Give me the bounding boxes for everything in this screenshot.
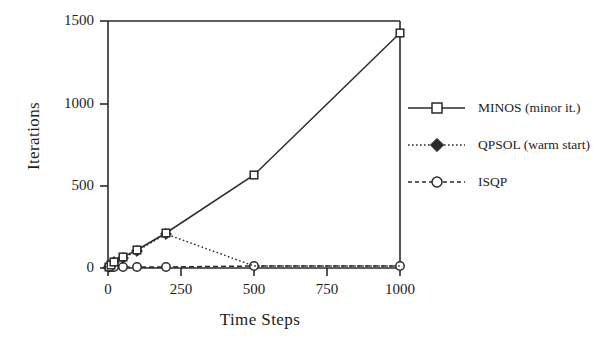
- series-minos: [105, 29, 404, 271]
- x-tick-label-0: 0: [78, 281, 138, 298]
- y-tick-label-1500: 1500: [34, 12, 94, 29]
- legend-label-minos: MINOS (minor it.): [478, 100, 580, 116]
- axes-frame: [103, 21, 403, 268]
- x-tick-label-500: 500: [224, 281, 284, 298]
- y-tick-label-0: 0: [34, 259, 94, 276]
- figure-canvas: 1500 1000 500 0 0 250 500 750 1000 Itera…: [0, 0, 607, 346]
- legend-samples: [408, 103, 465, 187]
- y-tick-marks: [100, 21, 108, 268]
- series-minos-markers: [105, 29, 404, 271]
- y-axis-title: Iterations: [24, 76, 44, 196]
- legend-label-isqp: ISQP: [478, 174, 507, 190]
- legend-marker-filled-diamond: [430, 138, 443, 151]
- x-axis-title: Time Steps: [175, 310, 345, 330]
- x-tick-label-750: 750: [297, 281, 357, 298]
- x-tick-label-250: 250: [151, 281, 211, 298]
- legend-label-qpsol: QPSOL (warm start): [478, 137, 590, 153]
- legend-marker-open-circle: [432, 177, 442, 187]
- legend-marker-open-square: [432, 103, 442, 113]
- x-tick-label-1000: 1000: [370, 281, 430, 298]
